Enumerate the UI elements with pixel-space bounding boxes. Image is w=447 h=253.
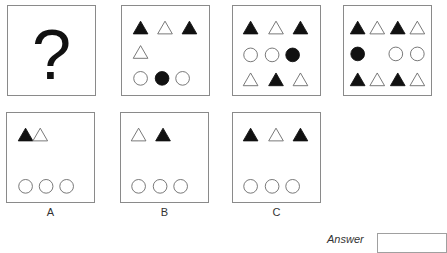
- outline-triangle-icon: [158, 21, 173, 34]
- outline-circle-icon: [244, 179, 258, 193]
- filled-triangle-icon: [293, 128, 308, 141]
- option-b-box[interactable]: [120, 112, 209, 203]
- question-mark-icon: ?: [8, 6, 95, 95]
- sequence-box-2: [232, 5, 321, 96]
- filled-circle-icon: [351, 47, 365, 61]
- filled-triangle-icon: [133, 21, 148, 34]
- filled-circle-icon: [155, 72, 169, 86]
- outline-circle-icon: [134, 72, 148, 86]
- question-box: ?: [7, 5, 96, 96]
- outline-triangle-icon: [370, 73, 385, 86]
- outline-circle-icon: [132, 179, 146, 193]
- shape-grid: [233, 113, 320, 202]
- outline-triangle-icon: [410, 73, 425, 86]
- outline-triangle-icon: [269, 21, 284, 34]
- shape-grid: [7, 113, 94, 202]
- shape-grid: [233, 6, 320, 95]
- sequence-box-3: [343, 5, 432, 96]
- outline-triangle-icon: [410, 21, 425, 34]
- option-b-label: B: [120, 206, 209, 218]
- outline-triangle-icon: [133, 46, 148, 59]
- outline-circle-icon: [265, 48, 279, 62]
- outline-circle-icon: [60, 179, 74, 193]
- filled-triangle-icon: [293, 21, 308, 34]
- outline-circle-icon: [244, 48, 258, 62]
- filled-triangle-icon: [350, 21, 365, 34]
- outline-circle-icon: [286, 179, 300, 193]
- svg-text:?: ?: [32, 15, 71, 94]
- filled-circle-icon: [286, 48, 300, 62]
- outline-triangle-icon: [293, 73, 308, 86]
- answer-label: Answer: [327, 233, 364, 245]
- filled-triangle-icon: [182, 21, 197, 34]
- outline-circle-icon: [19, 179, 33, 193]
- outline-circle-icon: [265, 179, 279, 193]
- outline-circle-icon: [174, 179, 188, 193]
- outline-circle-icon: [39, 179, 53, 193]
- sequence-box-1: [121, 5, 210, 96]
- filled-triangle-icon: [390, 21, 405, 34]
- outline-circle-icon: [176, 72, 190, 86]
- filled-triangle-icon: [350, 73, 365, 86]
- filled-triangle-icon: [243, 128, 258, 141]
- outline-circle-icon: [410, 47, 424, 61]
- filled-triangle-icon: [18, 128, 33, 141]
- shape-grid: [344, 6, 431, 95]
- answer-input[interactable]: [377, 233, 447, 253]
- filled-triangle-icon: [269, 73, 284, 86]
- filled-triangle-icon: [243, 21, 258, 34]
- shape-grid: [122, 6, 209, 95]
- option-a-box[interactable]: [6, 112, 95, 203]
- outline-triangle-icon: [33, 128, 48, 141]
- outline-triangle-icon: [243, 73, 258, 86]
- shape-grid: [121, 113, 208, 202]
- option-a-label: A: [6, 206, 95, 218]
- outline-circle-icon: [389, 47, 403, 61]
- filled-triangle-icon: [156, 128, 171, 141]
- outline-triangle-icon: [370, 21, 385, 34]
- outline-triangle-icon: [269, 128, 284, 141]
- outline-triangle-icon: [131, 128, 146, 141]
- option-c-box[interactable]: [232, 112, 321, 203]
- filled-triangle-icon: [390, 73, 405, 86]
- outline-circle-icon: [153, 179, 167, 193]
- option-c-label: C: [232, 206, 321, 218]
